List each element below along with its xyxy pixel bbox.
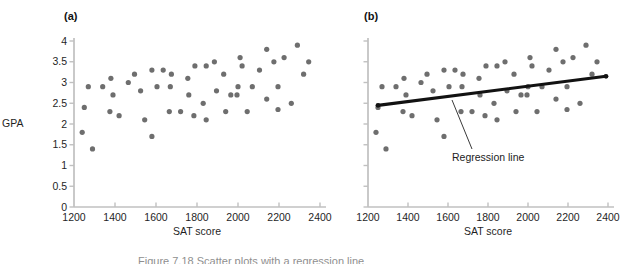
data-point (564, 107, 569, 112)
x-tick-label: 2000 (516, 211, 540, 223)
data-point (373, 130, 378, 135)
data-point (469, 109, 474, 114)
data-point (186, 92, 191, 97)
data-point (250, 84, 255, 89)
data-point (192, 63, 197, 68)
annotation-callout-line (452, 100, 472, 149)
x-tick-label: 1200 (62, 211, 86, 223)
data-point (529, 63, 534, 68)
data-point (553, 97, 558, 102)
data-point (511, 72, 516, 77)
data-point (214, 88, 219, 93)
data-point (82, 105, 87, 110)
data-point (289, 101, 294, 106)
y-tick-label: 2.5 (52, 97, 67, 109)
data-point (594, 59, 599, 64)
x-axis-title-panel-b: SAT score (448, 225, 528, 237)
data-point (264, 97, 269, 102)
data-point (583, 43, 588, 48)
data-point (460, 72, 465, 77)
data-point (204, 117, 209, 122)
data-point (401, 76, 406, 81)
x-tick-label: 2400 (308, 211, 332, 223)
data-point (441, 68, 446, 73)
data-point (107, 109, 112, 114)
data-point (257, 68, 262, 73)
data-point (518, 92, 523, 97)
data-point (240, 63, 245, 68)
x-tick-label: 1800 (476, 211, 500, 223)
data-point (441, 134, 446, 139)
data-point (161, 68, 166, 73)
data-point (424, 72, 429, 77)
y-tick-label: 3.5 (52, 55, 67, 67)
data-point (393, 84, 398, 89)
data-point (452, 68, 457, 73)
x-tick-label: 2000 (226, 211, 250, 223)
data-point (494, 63, 499, 68)
data-point (546, 68, 551, 73)
data-point (201, 101, 206, 106)
data-point (483, 63, 488, 68)
data-point (264, 47, 269, 52)
data-point (169, 72, 174, 77)
data-point (282, 55, 287, 60)
data-point (191, 113, 196, 118)
regression-line-endpoint (376, 103, 381, 108)
data-point (589, 72, 594, 77)
data-point (476, 76, 481, 81)
data-point (446, 84, 451, 89)
data-point (564, 84, 569, 89)
data-point (90, 146, 95, 151)
data-point (491, 101, 496, 106)
regression-line-endpoint (604, 74, 609, 79)
data-point (383, 146, 388, 151)
data-point (204, 63, 209, 68)
data-point (126, 80, 131, 85)
data-point (245, 109, 250, 114)
figure-canvas: 00.511.522.533.5412001400160018002000220… (0, 0, 634, 264)
data-point (418, 80, 423, 85)
data-point (527, 55, 532, 60)
data-point (301, 72, 306, 77)
regression-line (378, 76, 606, 105)
data-point (524, 92, 529, 97)
data-point (534, 109, 539, 114)
data-point (86, 84, 91, 89)
panel-b-label: (b) (364, 10, 378, 22)
scatter-plots-svg: 00.511.522.533.5412001400160018002000220… (0, 0, 634, 264)
data-point (458, 109, 463, 114)
x-tick-label: 2400 (596, 211, 620, 223)
y-tick-label: 4 (61, 35, 67, 47)
data-point (502, 59, 507, 64)
data-point (400, 109, 405, 114)
data-point (577, 101, 582, 106)
panel-a-label: (a) (64, 10, 77, 22)
data-point (430, 88, 435, 93)
data-point (149, 134, 154, 139)
x-tick-label: 2200 (267, 211, 291, 223)
y-tick-label: 1.5 (52, 138, 67, 150)
x-tick-label: 1600 (144, 211, 168, 223)
y-tick-label: 1 (61, 159, 67, 171)
y-tick-label: 0.5 (52, 180, 67, 192)
regression-line-annotation: Regression line (452, 151, 524, 163)
data-point (403, 92, 408, 97)
data-point (100, 84, 105, 89)
data-point (132, 72, 137, 77)
data-point (168, 84, 173, 89)
data-point (185, 76, 190, 81)
data-point (149, 68, 154, 73)
data-point (138, 88, 143, 93)
data-point (108, 76, 113, 81)
data-point (409, 113, 414, 118)
x-tick-label: 1800 (185, 211, 209, 223)
data-point (223, 109, 228, 114)
data-point (110, 92, 115, 97)
data-point (295, 43, 300, 48)
figure-caption-clipped: Figure 7.18 Scatter plots with a regress… (138, 256, 538, 264)
x-tick-label: 1400 (103, 211, 127, 223)
data-point (235, 84, 240, 89)
x-tick-label: 1200 (356, 211, 380, 223)
data-point (482, 113, 487, 118)
